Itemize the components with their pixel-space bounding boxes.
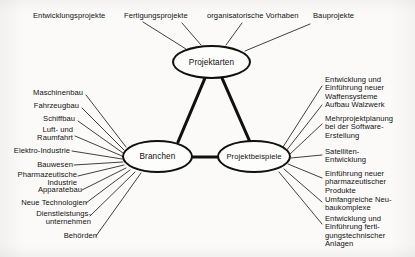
right-label-fertigungstechnische-anlagen: Entwicklung und Einführung ferti- gungst… xyxy=(325,215,385,249)
left-label-elektro-industrie: Elektro-Industrie xyxy=(14,147,70,155)
node-projektarten-label: Projektarten xyxy=(189,58,234,67)
node-projektbeispiele-label: Projektbeispiele xyxy=(226,152,281,161)
right-label-mehrprojektplanung: Mehrprojektplanung bei der Software- Ers… xyxy=(325,115,393,140)
left-label-fahrzeugbau: Fahrzeugbau xyxy=(34,102,79,110)
left-label-luft-und-raumfahrt: Luft- und Raumfahrt xyxy=(37,126,73,143)
left-label-apparatebau: Apparatebau xyxy=(38,186,82,194)
edge-projektarten-branchen xyxy=(178,78,205,142)
diagram-canvas: Projektarten Branchen Projektbeispiele E… xyxy=(0,0,415,257)
right-label-waffensysteme: Entwicklung und Einführung neuer Waffens… xyxy=(325,76,384,101)
left-label-schiffbau: Schiffbau xyxy=(43,115,75,123)
top-label-fertigungsprojekte: Fertigungsprojekte xyxy=(124,12,188,20)
left-label-maschinenbau: Maschinenbau xyxy=(33,89,83,97)
node-projektarten[interactable]: Projektarten xyxy=(172,45,251,79)
node-branchen[interactable]: Branchen xyxy=(122,140,193,173)
top-label-entwicklungsprojekte: Entwicklungsprojekte xyxy=(33,12,105,20)
right-label-neubaukomplexe: Umfangreiche Neu- baukomplexe xyxy=(325,196,392,213)
left-label-neue-technologien: Neue Technologien xyxy=(21,199,87,207)
top-label-bauprojekte: Bauprojekte xyxy=(313,12,354,20)
right-label-pharmazeutische-produkte: Einführung neuer pharmazeutischer Produk… xyxy=(325,170,386,195)
top-label-organisatorische-vorhaben: organisatorische Vorhaben xyxy=(207,12,299,20)
node-projektbeispiele[interactable]: Projektbeispiele xyxy=(217,140,291,173)
right-label-aufbau-walzwerk: Aufbau Walzwerk xyxy=(325,101,385,109)
right-label-satelliten-entwicklung: Satelliten- Entwicklung xyxy=(325,148,366,165)
left-label-dienstleistungsunternehmen: Dienstleistungs- unternehmen xyxy=(36,210,91,227)
left-label-bauwesen: Bauwesen xyxy=(37,161,73,169)
left-label-behoerden: Behörden xyxy=(64,232,97,240)
node-branchen-label: Branchen xyxy=(140,152,176,161)
edge-projektarten-projektbeispiele xyxy=(222,78,250,142)
